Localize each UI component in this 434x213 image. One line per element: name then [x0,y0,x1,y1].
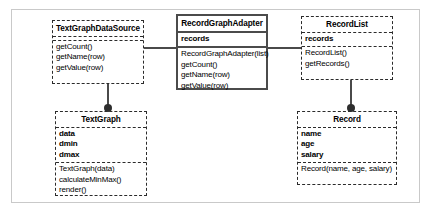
attribute-item: age [301,139,393,149]
method-item: Record(name, age, salary) [301,164,393,174]
method-item: getValue(row) [181,81,263,91]
class-title-textgraph: TextGraph [56,112,146,127]
attributes-compartment-recordlist: records [302,32,392,46]
method-item: getRecords() [305,59,389,69]
method-item: getName(row) [181,70,263,80]
class-box-textgraphdatasource[interactable]: TextGraphDataSource getCount() getName(r… [52,20,144,84]
attributes-compartment-textgraph: data dmin dmax [56,127,146,162]
attribute-item: records [305,34,389,44]
method-item: RecordGraphAdapter(list) [181,49,263,59]
attribute-item: salary [301,150,393,160]
methods-compartment-recordlist: RecordList() getRecords() [302,46,392,71]
class-title-recordgraphadapter: RecordGraphAdapter [178,16,266,31]
methods-compartment-record: Record(name, age, salary) [298,162,396,176]
class-title-record: Record [298,112,396,127]
class-box-recordlist[interactable]: RecordList records RecordList() getRecor… [301,16,393,80]
connector-ball-textgraph [104,104,112,112]
attribute-item: dmin [59,139,143,149]
methods-compartment-textgraph: TextGraph(data) calculateMinMax() render… [56,162,146,197]
attribute-item: name [301,129,393,139]
method-item: RecordList() [305,48,389,58]
connector-adapter-implements-datasource [144,47,178,49]
connector-adapter-uses-recordlist [267,47,302,49]
method-item: getName(row) [56,52,140,62]
class-title-recordlist: RecordList [302,17,392,32]
methods-compartment-recordgraphadapter: RecordGraphAdapter(list) getCount() getN… [178,46,266,93]
method-item: TextGraph(data) [59,164,143,174]
methods-compartment-textgraphdatasource: getCount() getName(row) getValue(row) [53,40,143,75]
method-item: getCount() [56,42,140,52]
class-box-textgraph[interactable]: TextGraph data dmin dmax TextGraph(data)… [55,111,147,196]
method-item: getCount() [181,60,263,70]
method-item: getValue(row) [56,63,140,73]
class-box-record[interactable]: Record name age salary Record(name, age,… [297,111,397,185]
method-item: render() [59,185,143,195]
attributes-compartment-record: name age salary [298,127,396,162]
method-item: calculateMinMax() [59,175,143,185]
connector-ball-record [347,104,355,112]
attribute-item: data [59,129,143,139]
class-box-recordgraphadapter[interactable]: RecordGraphAdapter records RecordGraphAd… [176,14,268,90]
class-title-textgraphdatasource: TextGraphDataSource [53,21,143,36]
attributes-compartment-recordgraphadapter: records [178,31,266,46]
attribute-item: dmax [59,150,143,160]
uml-class-diagram: TextGraphDataSource getCount() getName(r… [0,0,434,213]
attribute-item: records [181,34,263,44]
